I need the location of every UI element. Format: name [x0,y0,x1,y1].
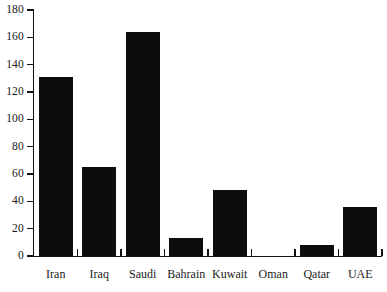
bar-kuwait [213,190,247,256]
y-tick-label-100: 100 [6,113,24,125]
plot-area [34,10,382,256]
y-tick-label-40: 40 [12,195,24,207]
y-tick-40 [27,201,34,202]
y-tick-label-180: 180 [6,4,24,16]
y-tick-80 [27,146,34,147]
y-tick-60 [27,173,34,174]
y-tick-label-120: 120 [6,86,24,98]
x-axis-label-oman: Oman [252,268,296,280]
bar-chart: 020406080100120140160180 IranIraqSaudiBa… [0,0,387,292]
bar-saudi [126,32,160,256]
y-tick-120 [27,91,34,92]
clipped-title-text [0,0,387,5]
y-tick-label-140: 140 [6,59,24,71]
y-tick-180 [27,9,34,10]
bar-bahrain [169,238,203,256]
x-axis-label-bahrain: Bahrain [165,268,209,280]
y-tick-label-0: 0 [18,250,24,262]
x-axis-label-kuwait: Kuwait [208,268,252,280]
bar-iran [39,77,73,256]
y-tick-140 [27,64,34,65]
x-axis-label-iraq: Iraq [78,268,122,280]
y-tick-100 [27,119,34,120]
y-tick-20 [27,228,34,229]
y-tick-label-20: 20 [12,223,24,235]
bar-uae [343,207,377,256]
x-axis-label-qatar: Qatar [295,268,339,280]
y-tick-label-160: 160 [6,31,24,43]
x-axis-label-iran: Iran [34,268,78,280]
bar-qatar [300,245,334,256]
x-axis-label-uae: UAE [339,268,383,280]
x-axis-label-saudi: Saudi [121,268,165,280]
y-tick-label-60: 60 [12,168,24,180]
y-tick-label-80: 80 [12,141,24,153]
y-tick-0 [27,255,34,256]
bar-iraq [82,167,116,256]
y-tick-160 [27,37,34,38]
